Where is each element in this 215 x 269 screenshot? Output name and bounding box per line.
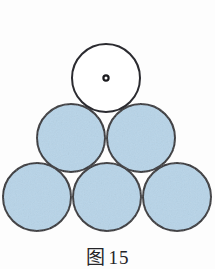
circle-bottom-center xyxy=(73,163,141,231)
circle-center-dot xyxy=(103,75,108,80)
caption-bottom-number: 15 xyxy=(106,247,130,268)
circle-pyramid-svg xyxy=(0,0,215,269)
circle-pyramid-diagram xyxy=(0,0,215,269)
circle-bottom-right xyxy=(143,163,211,231)
circle-middle-left xyxy=(37,104,105,172)
circle-bottom-left xyxy=(3,163,71,231)
figure-caption-bottom: 图15 xyxy=(0,246,215,269)
figure-page: 图14 xyxy=(0,0,215,269)
caption-bottom-label: 图 xyxy=(86,247,106,268)
circle-middle-right xyxy=(107,104,175,172)
